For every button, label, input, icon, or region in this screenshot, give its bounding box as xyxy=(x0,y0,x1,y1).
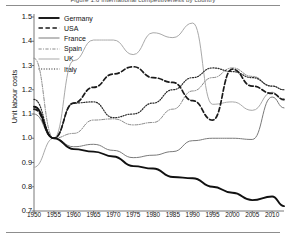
series-line-spain xyxy=(34,58,284,138)
figure-container: Figure 1.6 International competitiveness… xyxy=(0,0,286,240)
bottom-divider xyxy=(6,232,280,233)
axis-lines xyxy=(34,14,284,211)
series-line-usa xyxy=(34,67,284,139)
plot-area xyxy=(0,0,286,240)
axis-tickmarks xyxy=(32,17,273,214)
series-line-uk xyxy=(34,23,284,167)
series-line-germany xyxy=(34,107,284,206)
data-series-layer xyxy=(34,23,284,206)
